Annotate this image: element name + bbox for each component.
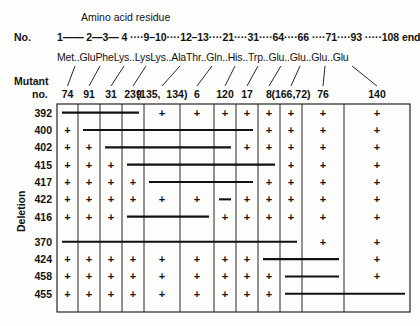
cell-plus: + [194,270,200,282]
cell-plus: + [374,211,380,223]
cell-plus: + [244,107,250,119]
cell-plus: + [288,124,294,136]
cell-plus: + [130,288,136,300]
cell-plus: + [194,107,200,119]
cell-plus: + [374,253,380,265]
cell-plus: + [320,211,326,223]
cell-plus: + [159,253,165,265]
cell-plus: + [159,270,165,282]
cell-plus: + [194,288,200,300]
cell-plus: + [159,193,165,205]
cell-plus: + [374,141,380,153]
cell-plus: + [86,193,92,205]
cell-plus: + [222,288,228,300]
cell-plus: + [108,159,114,171]
cell-plus: + [288,193,294,205]
cell-plus: + [266,270,272,282]
cell-plus: + [244,211,250,223]
cell-plus: + [374,176,380,188]
cell-plus: + [64,193,70,205]
cell-plus: + [288,141,294,153]
cell-plus: + [222,211,228,223]
cell-plus: + [266,288,272,300]
cell-plus: + [108,288,114,300]
cell-plus: + [244,141,250,153]
cell-marks: ++++++++++++++++++++++++++++++++++++++++… [62,107,405,300]
cell-plus: + [64,159,70,171]
cell-plus: + [86,176,92,188]
cell-plus: + [130,176,136,188]
cell-plus: + [222,253,228,265]
cell-plus: + [194,193,200,205]
cell-plus: + [86,159,92,171]
cell-plus: + [194,253,200,265]
cell-plus: + [86,253,92,265]
cell-plus: + [64,253,70,265]
cell-plus: + [374,270,380,282]
cell-plus: + [86,270,92,282]
cell-plus: + [130,253,136,265]
cell-plus: + [374,124,380,136]
cell-plus: + [320,107,326,119]
cell-plus: + [64,141,70,153]
cell-plus: + [244,193,250,205]
cell-plus: + [288,211,294,223]
cell-plus: + [86,288,92,300]
cell-plus: + [320,176,326,188]
cell-plus: + [108,176,114,188]
cell-plus: + [266,176,272,188]
cell-plus: + [244,270,250,282]
cell-plus: + [64,288,70,300]
cell-plus: + [86,141,92,153]
cell-plus: + [266,107,272,119]
cell-plus: + [222,107,228,119]
cell-plus: + [288,176,294,188]
cell-plus: + [64,211,70,223]
cell-plus: + [108,193,114,205]
cell-plus: + [159,288,165,300]
cell-plus: + [266,124,272,136]
cell-plus: + [222,270,228,282]
cell-plus: + [108,211,114,223]
cell-plus: + [320,193,326,205]
cell-plus: + [288,159,294,171]
cell-plus: + [320,236,326,248]
cell-plus: + [320,124,326,136]
cell-plus: + [64,270,70,282]
cell-plus: + [64,124,70,136]
cell-plus: + [159,107,165,119]
cell-plus: + [130,270,136,282]
cell-plus: + [266,141,272,153]
cell-plus: + [374,107,380,119]
cell-plus: + [374,159,380,171]
cell-plus: + [64,176,70,188]
cell-plus: + [374,236,380,248]
cell-plus: + [130,193,136,205]
cell-plus: + [320,159,326,171]
cell-plus: + [288,107,294,119]
cell-plus: + [374,193,380,205]
leader-lines [68,66,378,86]
cell-plus: + [108,253,114,265]
cell-plus: + [266,211,272,223]
cell-plus: + [266,193,272,205]
cell-plus: + [86,211,92,223]
cell-plus: + [244,253,250,265]
cell-plus: + [244,288,250,300]
cell-plus: + [108,270,114,282]
cell-plus: + [320,141,326,153]
